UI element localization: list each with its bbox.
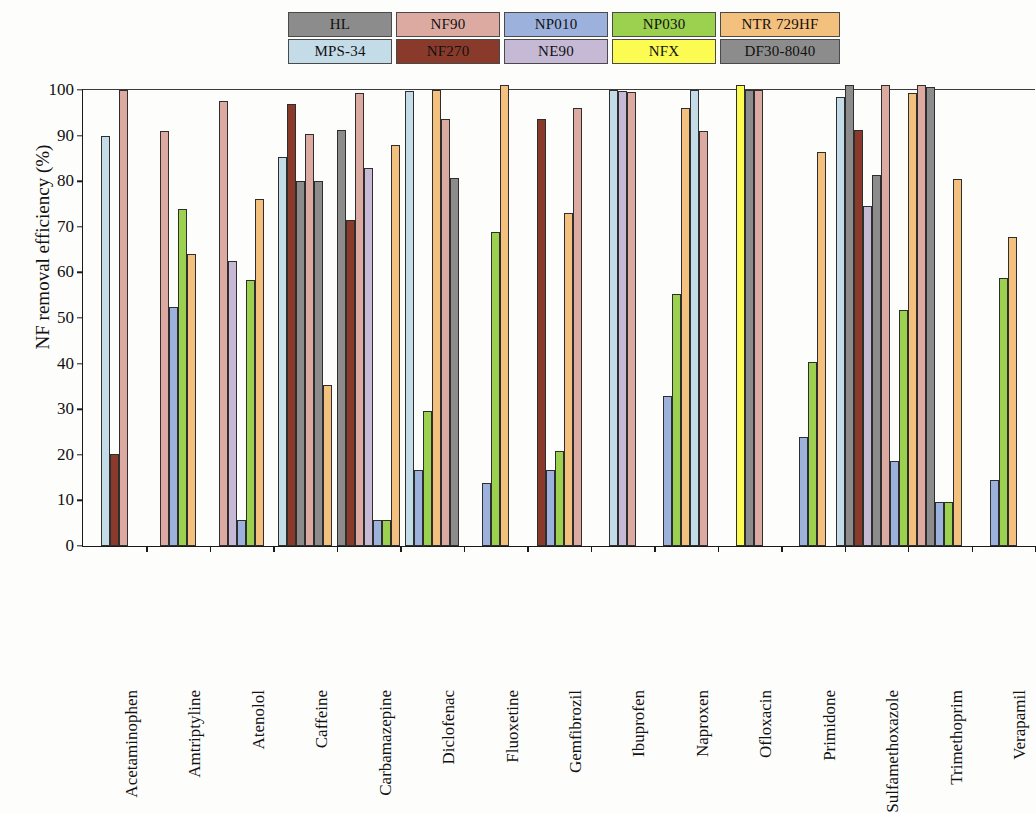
bar[interactable] (405, 91, 414, 546)
bar[interactable] (255, 199, 264, 546)
bar[interactable] (219, 101, 228, 546)
bar[interactable] (110, 454, 119, 546)
bar[interactable] (101, 136, 110, 546)
bar[interactable] (491, 232, 500, 546)
bar-group (990, 90, 1017, 546)
bar[interactable] (681, 108, 690, 546)
chart-legend: HLNF90NP010NP030NTR 729HFMPS-34NF270NE90… (288, 12, 840, 64)
bar[interactable] (899, 310, 908, 546)
bar[interactable] (917, 85, 926, 546)
bar-group (537, 90, 582, 546)
bar[interactable] (160, 131, 169, 546)
bar[interactable] (537, 119, 546, 546)
bar[interactable] (296, 181, 305, 546)
bar[interactable] (373, 520, 382, 546)
bar[interactable] (187, 254, 196, 546)
legend-item-mps-34[interactable]: MPS-34 (288, 39, 392, 64)
x-axis-category-label: Verapamil (1010, 690, 1030, 760)
bar[interactable] (863, 206, 872, 546)
legend-item-nf270[interactable]: NF270 (396, 39, 500, 64)
bar-group (101, 90, 128, 546)
bar[interactable] (323, 385, 332, 546)
bar[interactable] (337, 130, 346, 546)
x-axis-category-label: Amtriptyline (185, 690, 205, 778)
bar[interactable] (808, 362, 817, 546)
bar[interactable] (237, 520, 246, 546)
plot-area: 0102030405060708090100 (82, 90, 1035, 547)
bar[interactable] (546, 470, 555, 546)
bar[interactable] (500, 85, 509, 546)
bar[interactable] (278, 157, 287, 546)
legend-item-np010[interactable]: NP010 (504, 12, 608, 37)
legend-item-nfx[interactable]: NFX (612, 39, 716, 64)
legend-item-np030[interactable]: NP030 (612, 12, 716, 37)
bar[interactable] (908, 93, 917, 546)
bar[interactable] (305, 134, 314, 546)
x-axis-category-label: Carbamazepine (376, 690, 396, 796)
bar[interactable] (627, 92, 636, 546)
bar[interactable] (999, 278, 1008, 546)
bar[interactable] (1008, 237, 1017, 546)
bar[interactable] (690, 90, 699, 546)
bar[interactable] (364, 168, 373, 546)
x-axis-category-label: Diclofenac (439, 690, 459, 765)
bar[interactable] (854, 130, 863, 546)
bar[interactable] (382, 520, 391, 546)
bar[interactable] (672, 294, 681, 546)
bar[interactable] (699, 131, 708, 546)
bar[interactable] (482, 483, 491, 546)
bar-groups (83, 90, 1035, 546)
bar[interactable] (663, 396, 672, 546)
y-axis-tick-mark (77, 500, 83, 501)
bar[interactable] (944, 502, 953, 546)
x-axis-labels: AcetaminophenAmtriptylineAtenololCaffein… (82, 548, 1035, 696)
legend-item-ne90[interactable]: NE90 (504, 39, 608, 64)
legend-item-hl[interactable]: HL (288, 12, 392, 37)
bar[interactable] (441, 119, 450, 546)
y-axis-tick-mark (77, 89, 83, 90)
bar[interactable] (450, 178, 459, 546)
bar[interactable] (346, 220, 355, 546)
bar[interactable] (228, 261, 237, 546)
legend-item-ntr-729hf[interactable]: NTR 729HF (720, 12, 840, 37)
bar[interactable] (555, 451, 564, 546)
bar[interactable] (990, 480, 999, 546)
bar[interactable] (881, 85, 890, 546)
bar[interactable] (926, 87, 935, 546)
bar[interactable] (754, 90, 763, 546)
bar[interactable] (355, 93, 364, 546)
legend-row: HLNF90NP010NP030NTR 729HF (288, 12, 840, 37)
bar[interactable] (836, 97, 845, 546)
y-axis-tick-mark (77, 272, 83, 273)
bar[interactable] (564, 213, 573, 546)
bar[interactable] (414, 470, 423, 546)
bar[interactable] (817, 152, 826, 546)
bar[interactable] (178, 209, 187, 546)
bar[interactable] (314, 181, 323, 546)
bar-group (609, 90, 636, 546)
bar[interactable] (953, 179, 962, 546)
bar[interactable] (609, 90, 618, 546)
bar[interactable] (935, 502, 944, 546)
bar[interactable] (890, 461, 899, 546)
bar[interactable] (618, 91, 627, 546)
bar[interactable] (246, 280, 255, 546)
bar[interactable] (736, 85, 745, 546)
bar[interactable] (573, 108, 582, 546)
bar[interactable] (799, 437, 808, 546)
bar[interactable] (391, 145, 400, 546)
legend-item-df30-8040[interactable]: DF30-8040 (720, 39, 840, 64)
legend-row: MPS-34NF270NE90NFXDF30-8040 (288, 39, 840, 64)
bar[interactable] (872, 175, 881, 546)
bar[interactable] (432, 90, 441, 546)
bar[interactable] (169, 307, 178, 546)
bar[interactable] (119, 90, 128, 546)
bar-group (917, 90, 962, 546)
bar[interactable] (845, 85, 854, 546)
bar[interactable] (423, 411, 432, 546)
bar[interactable] (745, 90, 754, 546)
bar[interactable] (287, 104, 296, 546)
legend-item-nf90[interactable]: NF90 (396, 12, 500, 37)
bar-group (836, 90, 917, 546)
